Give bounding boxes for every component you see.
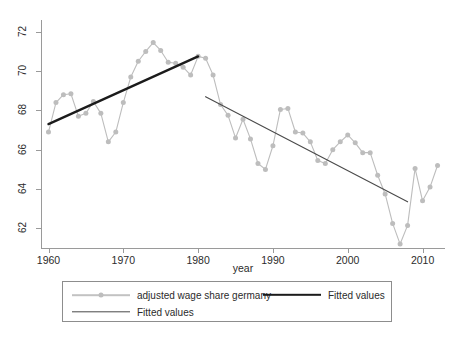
y-tick-label: 66 — [17, 139, 28, 159]
legend-swatch-thick-line — [263, 289, 321, 301]
data-point — [315, 158, 320, 163]
data-point — [68, 91, 73, 96]
data-point — [113, 130, 118, 135]
data-point — [53, 100, 58, 105]
data-point — [405, 223, 410, 228]
y-tick-label: 70 — [17, 61, 28, 81]
chart-legend: adjusted wage share germany Fitted value… — [62, 281, 392, 322]
legend-label-fit-thin: Fitted values — [137, 307, 194, 318]
legend-item-fit-thin[interactable]: Fitted values — [72, 304, 194, 320]
x-tick — [49, 248, 50, 253]
y-tick-label: 62 — [17, 218, 28, 238]
data-point — [143, 49, 148, 54]
data-point — [308, 139, 313, 144]
x-tick — [273, 248, 274, 253]
series-fitted-values-1 — [48, 56, 198, 124]
data-point — [390, 221, 395, 226]
legend-item-series[interactable]: adjusted wage share germany — [72, 287, 271, 303]
data-point — [211, 73, 216, 78]
data-point — [121, 100, 126, 105]
data-point — [368, 150, 373, 155]
legend-label-series: adjusted wage share germany — [137, 290, 271, 301]
data-point — [383, 191, 388, 196]
data-point — [188, 73, 193, 78]
y-tick-label: 64 — [17, 179, 28, 199]
data-point — [226, 113, 231, 118]
data-point — [330, 147, 335, 152]
x-tick — [198, 248, 199, 253]
data-point — [181, 65, 186, 70]
data-point — [420, 198, 425, 203]
data-point — [413, 166, 418, 171]
data-point — [151, 40, 156, 45]
data-point — [166, 60, 171, 65]
data-point — [360, 150, 365, 155]
x-tick — [423, 248, 424, 253]
x-axis-title: year — [41, 262, 445, 274]
data-point — [300, 131, 305, 136]
legend-label-fit-thick: Fitted values — [328, 290, 385, 301]
data-point — [398, 242, 403, 247]
data-point — [353, 140, 358, 145]
data-point — [278, 107, 283, 112]
data-point — [263, 167, 268, 172]
legend-swatch-thin-line — [72, 306, 130, 318]
data-point — [248, 136, 253, 141]
data-point — [136, 59, 141, 64]
data-point — [285, 106, 290, 111]
data-point — [46, 130, 51, 135]
y-tick-label: 72 — [17, 21, 28, 41]
data-point — [83, 111, 88, 116]
data-point — [323, 161, 328, 166]
data-point — [233, 135, 238, 140]
x-tick — [123, 248, 124, 253]
legend-item-fit-thick[interactable]: Fitted values — [263, 287, 385, 303]
data-point — [98, 111, 103, 116]
series-fitted-values-2 — [206, 97, 408, 202]
data-point — [270, 143, 275, 148]
data-series-layer — [41, 20, 445, 248]
x-axis-line — [41, 248, 445, 249]
data-point — [428, 185, 433, 190]
legend-swatch-line-with-markers — [72, 289, 130, 301]
data-point — [158, 48, 163, 53]
data-point — [61, 92, 66, 97]
data-point — [76, 114, 81, 119]
data-point — [435, 163, 440, 168]
data-point — [128, 75, 133, 80]
data-point — [203, 56, 208, 61]
data-point — [345, 132, 350, 137]
plot-area: 196019701980199020002010 — [41, 20, 445, 248]
data-point — [375, 173, 380, 178]
series-line — [206, 97, 408, 202]
x-tick — [348, 248, 349, 253]
data-point — [293, 130, 298, 135]
chart-root: 626466687072 196019701980199020002010 ye… — [0, 0, 454, 341]
data-point — [255, 161, 260, 166]
data-point — [338, 139, 343, 144]
data-point — [106, 139, 111, 144]
series-adjusted-wage-share — [46, 40, 440, 246]
y-tick-label: 68 — [17, 100, 28, 120]
series-line — [48, 56, 198, 124]
